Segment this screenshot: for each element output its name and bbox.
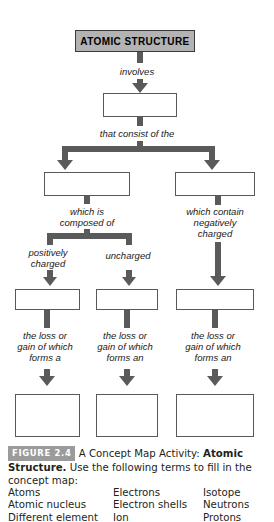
connector-title-stub (137, 52, 143, 63)
term-item: Protons (203, 512, 270, 522)
connector-blank1-stub (137, 117, 143, 126)
label-loss-or-gain-forms-a: the loss or gain of which forms a (7, 330, 83, 363)
figure-caption: FIGURE 2.4 A Concept Map Activity: Atomi… (8, 446, 268, 488)
connector-right-long-stem (215, 242, 221, 278)
arrow-to-blank-3-left (43, 277, 57, 286)
blank-node-1[interactable] (103, 93, 177, 117)
term-item: Atomic nucleus (8, 499, 113, 511)
blank-node-4-left[interactable] (15, 394, 80, 437)
arrow-to-blank-2-left (57, 160, 73, 170)
node-atomic-structure: ATOMIC STRUCTURE (75, 30, 195, 52)
connector-split2-bar (47, 233, 132, 239)
blank-node-3-right[interactable] (176, 289, 254, 310)
label-positively-charged: positively charged (10, 247, 86, 269)
connector-blank3middle-stem (124, 310, 130, 328)
arrow-to-blank-4-right (207, 376, 223, 386)
label-uncharged: uncharged (95, 250, 161, 261)
connector-blank2left-stub (84, 196, 90, 204)
label-that-consist-of-the: that consist of the (78, 128, 196, 139)
connector-blank2right-stub (215, 196, 221, 205)
term-item: Electron shells (113, 499, 203, 511)
connector-blank3right-stem (212, 310, 218, 328)
connector-split2-left-drop (47, 233, 53, 245)
caption-text-part-1: A Concept Map Activity: (75, 448, 203, 459)
connector-split2-right-drop (126, 233, 132, 245)
concept-map: ATOMIC STRUCTURE involves that consist o… (0, 0, 274, 444)
blank-node-3-middle[interactable] (96, 289, 158, 310)
arrow-to-blank-4-middle (119, 376, 135, 386)
blank-node-4-middle[interactable] (96, 394, 158, 437)
arrow-to-blank-4-left (39, 376, 55, 386)
term-item: Ion (113, 512, 203, 522)
blank-node-3-left[interactable] (15, 289, 80, 310)
figure-page: ATOMIC STRUCTURE involves that consist o… (0, 0, 274, 522)
term-item: Different element (8, 512, 113, 522)
term-item: Neutrons (203, 499, 270, 511)
term-list: Atoms Electrons Isotope Atomic nucleus E… (8, 487, 270, 522)
label-involves: involves (90, 66, 184, 77)
connector-blank3left-stem (44, 310, 50, 328)
node-atomic-structure-label: ATOMIC STRUCTURE (80, 36, 189, 47)
label-which-is-composed-of: which is composed of (40, 206, 134, 228)
term-item: Atoms (8, 487, 113, 499)
arrow-to-blank-1 (132, 83, 148, 93)
blank-node-2-right[interactable] (175, 172, 255, 196)
blank-node-4-right[interactable] (176, 394, 254, 437)
arrow-to-blank-2-right (204, 160, 220, 170)
blank-node-2-left[interactable] (44, 172, 130, 196)
term-item: Isotope (203, 487, 270, 499)
figure-number-badge: FIGURE 2.4 (8, 446, 75, 461)
label-loss-or-gain-forms-an-middle: the loss or gain of which forms an (87, 330, 163, 363)
arrow-to-blank-3-middle (122, 277, 136, 286)
label-which-contain-negatively-charged: which contain negatively charged (172, 206, 258, 239)
connector-split1-bar (62, 146, 215, 152)
label-loss-or-gain-forms-an-right: the loss or gain of which forms an (175, 330, 251, 363)
term-item: Electrons (113, 487, 203, 499)
arrow-to-blank-3-right (210, 276, 226, 286)
